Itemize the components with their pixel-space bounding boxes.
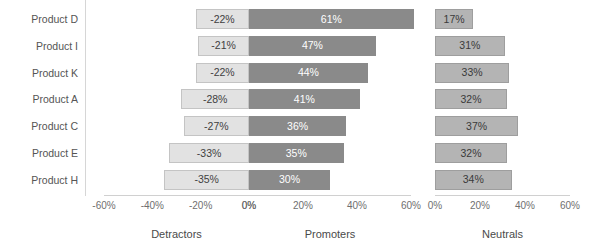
bar-value-label: 32% (460, 148, 481, 159)
axis-tick-promoters: 60% (401, 200, 421, 211)
axis-title-promoters: Promoters (305, 228, 356, 240)
axis-title-detractors: Detractors (151, 228, 202, 240)
axis-tick-detractors: -60% (92, 200, 115, 211)
axis-tick-neutrals: 0% (428, 200, 442, 211)
axis-tick-neutrals: 40% (515, 200, 535, 211)
axis-tick-promoters: 20% (293, 200, 313, 211)
bar-value-label: 32% (460, 94, 481, 105)
bar-value-label: 33% (462, 67, 483, 78)
axis-tick-detractors: -40% (141, 200, 164, 211)
nps-breakdown-chart: Product DProduct IProduct KProduct AProd… (0, 0, 605, 251)
bar-value-label: 17% (444, 14, 465, 25)
bar-value-label: 34% (463, 174, 484, 185)
axis-tick-promoters: 40% (347, 200, 367, 211)
axis-tick-neutrals: 20% (470, 200, 490, 211)
axis-tick-promoters: 0% (242, 200, 256, 211)
bar-neutrals: 33% (435, 63, 509, 83)
bar-neutrals: 31% (435, 36, 505, 56)
bar-neutrals: 32% (435, 89, 507, 109)
bar-value-label: 37% (466, 121, 487, 132)
axis-line-neutrals (435, 195, 570, 196)
axis-title-neutrals: Neutrals (482, 228, 523, 240)
bar-neutrals: 17% (435, 9, 473, 29)
axis-tick-detractors: -20% (189, 200, 212, 211)
bar-neutrals: 34% (435, 170, 512, 190)
panel-neutrals: 17%31%33%32%37%32%34%0%20%40%60%Neutrals (0, 0, 605, 196)
axis-tick-neutrals: 60% (560, 200, 580, 211)
bar-neutrals: 37% (435, 116, 518, 136)
bar-neutrals: 32% (435, 143, 507, 163)
bar-value-label: 31% (459, 40, 480, 51)
